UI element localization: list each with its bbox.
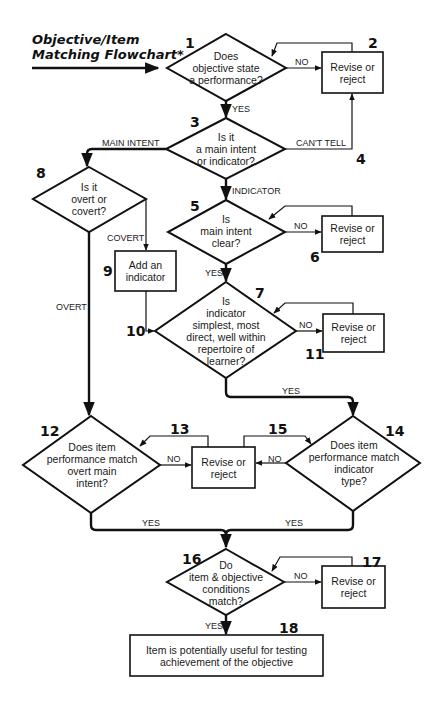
edge-label-overt: OVERT bbox=[56, 302, 87, 312]
step-number-1: 1 bbox=[185, 36, 195, 50]
step-number-16: 16 bbox=[182, 552, 201, 566]
edge-label-no-16: NO bbox=[294, 571, 308, 581]
step-number-17: 17 bbox=[362, 555, 381, 569]
edge-label-no-12: NO bbox=[167, 454, 181, 464]
flowchart-title: Objective/Item Matching Flowchart* bbox=[32, 32, 184, 62]
step-number-10: 10 bbox=[126, 324, 145, 338]
step-number-15: 15 bbox=[268, 422, 287, 436]
step-number-12: 12 bbox=[40, 424, 59, 438]
decision-1-text: Does objective state a performance? bbox=[180, 44, 272, 92]
process-6-text: Revise or reject bbox=[322, 216, 383, 252]
edge-label-yes-14: YES bbox=[285, 518, 303, 528]
edge-label-main-intent: MAIN INTENT bbox=[102, 138, 160, 148]
step-number-14: 14 bbox=[385, 424, 404, 438]
edge-label-no-5: NO bbox=[294, 221, 308, 231]
edge-label-yes-5: YES bbox=[205, 268, 223, 278]
edge-label-no-1: NO bbox=[295, 57, 309, 67]
decision-3-text: Is it a main intent or indicator? bbox=[176, 126, 276, 172]
decision-5-text: Is main intent clear? bbox=[180, 208, 272, 254]
title-line-2: Matching Flowchart* bbox=[32, 47, 184, 62]
terminal-18-text: Item is potentially useful for testing a… bbox=[130, 635, 323, 676]
edge-label-yes-1: YES bbox=[232, 104, 250, 114]
step-number-13: 13 bbox=[170, 422, 189, 436]
edge-label-yes-7: YES bbox=[282, 386, 300, 396]
edge-3-8 bbox=[87, 149, 166, 166]
step-number-6: 6 bbox=[310, 250, 320, 264]
edge-label-yes-16: YES bbox=[205, 621, 223, 631]
step-number-11: 11 bbox=[305, 347, 324, 361]
edge-label-no-7: NO bbox=[299, 320, 313, 330]
process-17-text: Revise or reject bbox=[322, 566, 385, 608]
edge-9-7 bbox=[146, 291, 154, 331]
title-line-1: Objective/Item bbox=[32, 32, 184, 47]
process-11-text: Revise or reject bbox=[323, 314, 384, 352]
decision-14-text: Does item performance match indicator ty… bbox=[302, 436, 406, 490]
edge-label-cant-tell: CAN'T TELL bbox=[296, 138, 346, 148]
decision-12-text: Does item performance match overt main i… bbox=[40, 438, 144, 492]
edge-label-no-14: NO bbox=[268, 454, 282, 464]
edge-7-14 bbox=[226, 378, 353, 415]
step-number-7: 7 bbox=[255, 286, 265, 300]
step-number-9: 9 bbox=[103, 264, 113, 278]
decision-8-text: Is it overt or covert? bbox=[48, 176, 130, 222]
edge-15-14 bbox=[244, 436, 311, 447]
process-13-text: Revise or reject bbox=[192, 447, 255, 488]
edge-label-indicator: INDICATOR bbox=[232, 186, 281, 196]
step-number-4: 4 bbox=[356, 152, 366, 166]
decision-7-text: Is indicator simplest, most direct, well… bbox=[166, 293, 286, 369]
step-number-5: 5 bbox=[190, 199, 200, 213]
edge-label-yes-12: YES bbox=[142, 518, 160, 528]
step-number-8: 8 bbox=[36, 166, 46, 180]
edge-13-12 bbox=[140, 436, 208, 447]
step-number-18: 18 bbox=[279, 621, 298, 635]
process-2-text: Revise or reject bbox=[322, 52, 383, 93]
step-number-2: 2 bbox=[368, 36, 378, 50]
edge-14-16 bbox=[226, 511, 353, 547]
step-number-3: 3 bbox=[190, 115, 200, 129]
process-9-text: Add an indicator bbox=[115, 251, 176, 291]
edge-label-covert: COVERT bbox=[107, 233, 144, 243]
